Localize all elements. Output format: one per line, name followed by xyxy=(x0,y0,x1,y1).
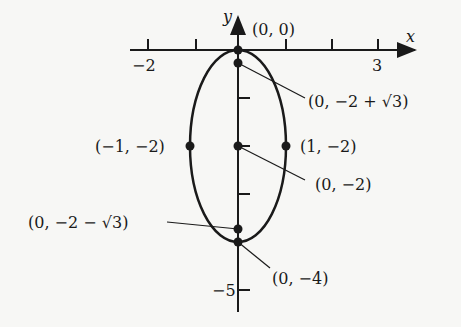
y-ticks xyxy=(238,98,250,290)
ellipse-diagram: −2 3 −5 x y (0, 0) (0, −2 + √3) (−1, −2)… xyxy=(0,0,461,327)
y-tick-label-neg5: −5 xyxy=(212,281,236,300)
label-right-vertex: (1, −2) xyxy=(300,137,356,156)
label-upper-focus: (0, −2 + √3) xyxy=(308,92,408,111)
x-axis-label: x xyxy=(406,27,415,46)
point-bottom-vertex xyxy=(234,238,243,247)
point-upper-focus xyxy=(234,59,243,68)
point-center xyxy=(234,142,243,151)
diagram-canvas: −2 3 −5 x y (0, 0) (0, −2 + √3) (−1, −2)… xyxy=(0,0,461,327)
x-tick-label-neg2: −2 xyxy=(132,56,156,75)
label-lower-focus: (0, −2 − √3) xyxy=(28,213,128,232)
point-lower-focus xyxy=(234,225,243,234)
x-tick-label-3: 3 xyxy=(372,56,382,75)
point-origin xyxy=(234,46,243,55)
label-left-vertex: (−1, −2) xyxy=(95,137,165,156)
point-right-vertex xyxy=(282,142,291,151)
label-center: (0, −2) xyxy=(315,175,371,194)
x-ticks xyxy=(148,39,378,50)
label-bottom-vertex: (0, −4) xyxy=(272,269,328,288)
label-origin: (0, 0) xyxy=(252,20,295,39)
point-left-vertex xyxy=(186,142,195,151)
y-axis-label: y xyxy=(222,7,233,26)
